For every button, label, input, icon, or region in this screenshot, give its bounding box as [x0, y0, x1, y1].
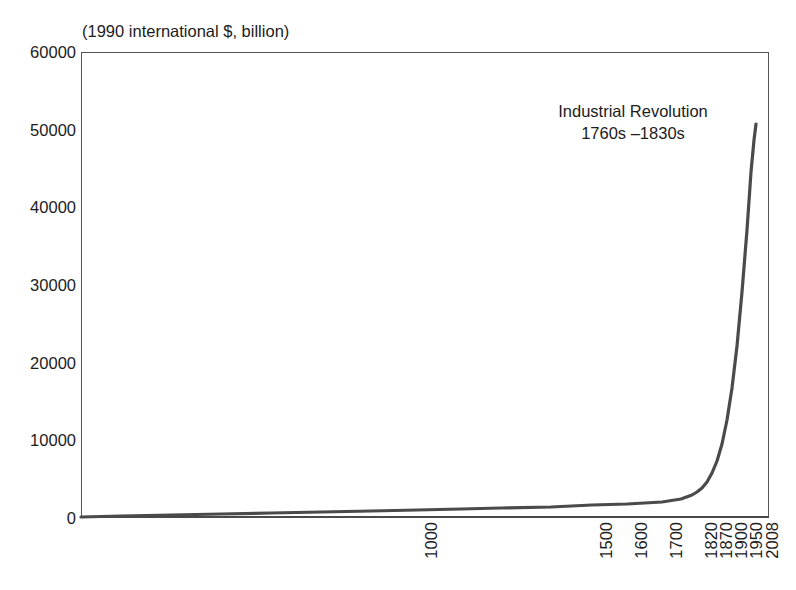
annotation-line-2: 1760s –1830s: [533, 122, 733, 144]
industrial-revolution-annotation: Industrial Revolution 1760s –1830s: [533, 100, 733, 144]
annotation-line-1: Industrial Revolution: [533, 100, 733, 122]
x-axis-tick-label: 2008: [764, 522, 781, 559]
world-gdp-chart: (1990 international $, billion) 01000020…: [0, 0, 796, 590]
x-axis-tick-label: 1700: [668, 522, 685, 559]
x-axis-tick-label: 1000: [423, 522, 440, 559]
x-axis-tick-label: 1600: [633, 522, 650, 559]
x-axis-tick-label: 1500: [598, 522, 615, 559]
x-axis-labels: 100015001600170018201870190019502008: [0, 0, 796, 590]
